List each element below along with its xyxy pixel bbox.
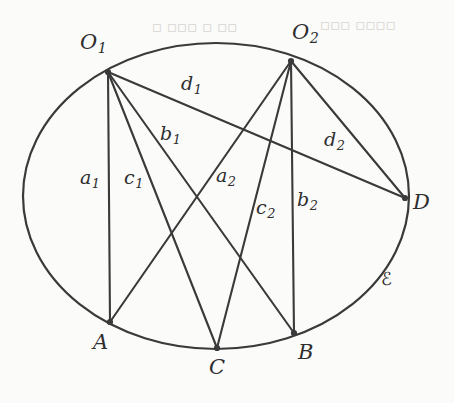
vertex-dot-A	[107, 319, 113, 325]
segment-c1	[108, 72, 217, 348]
segment-label-b2: b2	[297, 190, 318, 213]
segment-label-a1: a1	[80, 168, 100, 191]
segment-label-c1-base: c	[124, 166, 135, 188]
figure-canvas	[0, 0, 454, 403]
segment-label-d2-base: d	[324, 128, 336, 150]
segment-label-c2: c2	[256, 198, 275, 221]
vertex-label-A-base: A	[93, 330, 108, 354]
segment-label-c1-subscript: 1	[135, 176, 143, 191]
vertex-label-O2: O2	[292, 22, 319, 45]
vertex-dot-O1	[105, 69, 111, 75]
vertex-label-A: A	[93, 332, 108, 353]
vertex-label-C-base: C	[209, 355, 225, 379]
segment-label-c2-base: c	[256, 196, 267, 218]
segment-c2	[217, 61, 291, 348]
segment-b2	[291, 61, 294, 333]
segment-label-b1: b1	[160, 124, 181, 147]
segment-label-a1-subscript: 1	[92, 176, 100, 191]
vertex-label-C: C	[209, 357, 225, 378]
segment-a1	[108, 72, 110, 322]
segment-label-d2-subscript: 2	[337, 138, 345, 153]
geometry-figure: ▫ ▫▫▫ ▫ ▫▫ ▫▫▫ ▫▫▫▫ O1O2DACBa1c1b1d1a2c2…	[0, 0, 454, 403]
segment-label-c1: c1	[124, 168, 143, 191]
vertex-label-B: B	[298, 342, 313, 363]
segment-label-b2-subscript: 2	[310, 198, 318, 213]
vertex-label-O2-subscript: 2	[310, 30, 319, 46]
ellipse-name-label: ℰ	[381, 270, 392, 288]
vertex-label-B-base: B	[298, 340, 313, 364]
segment-label-a1-base: a	[80, 166, 91, 188]
segment-label-d1-subscript: 1	[194, 82, 202, 97]
vertex-label-O1: O1	[80, 32, 107, 55]
vertex-dot-C	[214, 345, 220, 351]
segment-label-a2-subscript: 2	[228, 174, 236, 189]
segment-label-b2-base: b	[297, 188, 309, 210]
vertex-label-O2-base: O	[292, 20, 309, 44]
segment-label-b1-subscript: 1	[173, 132, 181, 147]
vertex-label-O1-subscript: 1	[98, 40, 107, 56]
segment-label-d2: d2	[324, 130, 345, 153]
segment-label-d1: d1	[181, 74, 202, 97]
vertex-dot-D	[402, 195, 408, 201]
segment-label-c2-subscript: 2	[267, 206, 275, 221]
vertex-label-O1-base: O	[80, 30, 97, 54]
segment-label-d1-base: d	[181, 72, 193, 94]
vertex-label-D: D	[413, 192, 430, 213]
segment-label-a2-base: a	[216, 164, 227, 186]
vertex-dot-O2	[288, 58, 294, 64]
segment-d2	[291, 61, 405, 198]
ellipse-curve	[23, 43, 409, 349]
ellipse-group	[23, 43, 409, 349]
segment-label-a2: a2	[216, 166, 236, 189]
vertex-dot-B	[291, 330, 297, 336]
vertex-label-D-base: D	[413, 190, 430, 214]
segment-label-b1-base: b	[160, 122, 172, 144]
segment-a2	[110, 61, 291, 322]
